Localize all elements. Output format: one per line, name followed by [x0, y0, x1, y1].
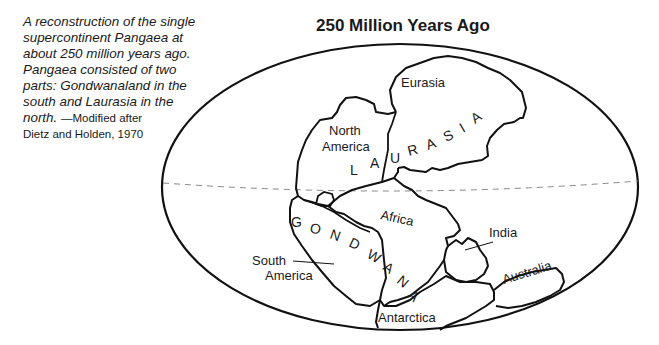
svg-text:W: W	[365, 246, 385, 267]
pangaea-map: Eurasia North America Africa South Ameri…	[0, 0, 659, 345]
svg-text:I: I	[457, 120, 468, 136]
svg-text:G: G	[291, 214, 302, 230]
label-north-america: America	[322, 139, 370, 154]
label-africa: Africa	[379, 207, 415, 229]
svg-text:R: R	[406, 141, 420, 159]
svg-text:A: A	[424, 134, 439, 152]
svg-text:D: D	[347, 234, 363, 253]
svg-text:A: A	[380, 258, 397, 277]
svg-text:L: L	[350, 162, 358, 178]
label-eurasia: Eurasia	[401, 75, 446, 90]
india-landmass	[444, 238, 488, 282]
svg-text:N: N	[328, 226, 343, 244]
svg-text:S: S	[441, 126, 456, 144]
label-australia: Australia	[500, 258, 553, 287]
africa-landmass	[328, 178, 460, 306]
label-south-america: America	[265, 268, 313, 283]
svg-text:N: N	[394, 272, 412, 291]
svg-text:U: U	[390, 150, 400, 166]
label-india: India	[489, 225, 518, 240]
label-antarctica: Antarctica	[378, 310, 437, 325]
svg-text:O: O	[308, 219, 323, 237]
laurasia-label: L A U R A S I A	[350, 108, 485, 178]
svg-text:A: A	[370, 155, 380, 171]
label-north-america: North	[329, 123, 361, 138]
label-south-america: South	[252, 253, 286, 268]
north-america-inner-line	[382, 112, 396, 182]
svg-text:A: A	[468, 108, 485, 127]
svg-text:A: A	[405, 287, 423, 305]
